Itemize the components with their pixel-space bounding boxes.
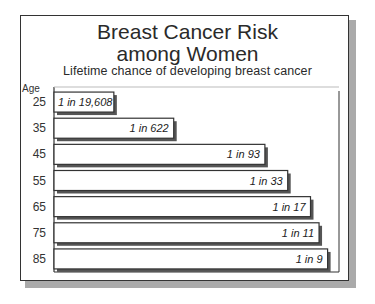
- y-tick-label: 55: [33, 174, 47, 188]
- y-tick-label: 45: [33, 147, 47, 161]
- bar-value-label: 1 in 93: [227, 148, 261, 160]
- bar-value-label: 1 in 11: [282, 227, 314, 239]
- y-tick-label: 85: [33, 252, 47, 266]
- bar-chart: 251 in 19,608351 in 622451 in 93551 in 3…: [0, 0, 375, 304]
- y-tick-label: 75: [33, 226, 47, 240]
- bars-group: 251 in 19,608351 in 622451 in 93551 in 3…: [33, 92, 331, 272]
- bar-value-label: 1 in 622: [130, 122, 169, 134]
- bar-value-label: 1 in 17: [272, 201, 306, 213]
- bar-age-75: [54, 223, 319, 243]
- y-tick-label: 25: [33, 95, 47, 109]
- bar-age-85: [54, 249, 328, 269]
- bar-value-label: 1 in 33: [250, 175, 284, 187]
- bar-value-label: 1 in 19,608: [58, 96, 113, 108]
- y-tick-label: 65: [33, 200, 47, 214]
- y-tick-label: 35: [33, 121, 47, 135]
- bar-value-label: 1 in 9: [296, 253, 323, 265]
